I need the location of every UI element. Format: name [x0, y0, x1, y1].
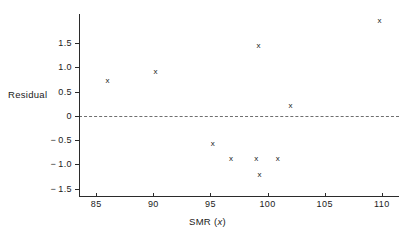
y-tick	[75, 164, 80, 165]
x-tick	[325, 193, 326, 197]
y-tick-label: 1.0	[32, 62, 72, 72]
x-axis-title-prefix: SMR (	[189, 216, 217, 227]
x-tick-label: 85	[76, 199, 116, 209]
data-point: x	[274, 154, 281, 163]
y-tick	[75, 67, 80, 68]
x-axis-title-suffix: )	[223, 216, 226, 227]
x-tick-label: 90	[133, 199, 173, 209]
data-point: x	[287, 101, 294, 110]
residual-scatter-plot-figure: 1.51.00.50− 0.5− 1.0− 1.5 85909510010511…	[0, 0, 415, 242]
y-tick-label: − 0.5	[32, 135, 72, 145]
data-point: x	[209, 139, 216, 148]
y-tick-label: 0	[32, 111, 72, 121]
y-tick-label: − 1.0	[32, 159, 72, 169]
y-axis-line	[79, 14, 80, 196]
x-tick	[210, 193, 211, 197]
data-point: x	[104, 76, 111, 85]
plot-area	[79, 14, 399, 196]
y-tick-label: 1.5	[32, 38, 72, 48]
x-tick	[96, 193, 97, 197]
data-point: x	[256, 170, 263, 179]
x-tick	[382, 193, 383, 197]
data-point: x	[376, 16, 383, 25]
x-tick	[153, 193, 154, 197]
data-point: x	[152, 67, 159, 76]
data-point: x	[228, 154, 235, 163]
x-axis-title: SMR (x)	[0, 216, 415, 227]
y-axis-title: Residual	[8, 89, 47, 100]
x-axis-line	[79, 196, 399, 197]
data-point: x	[253, 154, 260, 163]
y-tick	[75, 189, 80, 190]
x-tick-label: 105	[305, 199, 345, 209]
zero-reference-line	[79, 116, 399, 117]
x-tick-label: 110	[362, 199, 402, 209]
y-tick	[75, 92, 80, 93]
data-point: x	[255, 41, 262, 50]
y-tick	[75, 116, 80, 117]
y-tick	[75, 140, 80, 141]
x-tick-label: 100	[248, 199, 288, 209]
y-tick-label: − 1.5	[32, 184, 72, 194]
x-tick-label: 95	[190, 199, 230, 209]
x-tick	[268, 193, 269, 197]
y-tick	[75, 43, 80, 44]
